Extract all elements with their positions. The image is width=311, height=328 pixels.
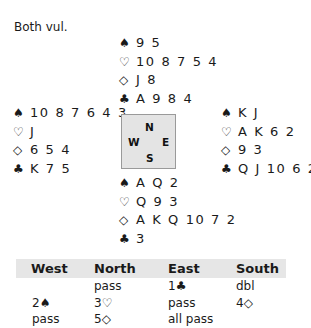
bid-west: 2♠ bbox=[16, 295, 88, 312]
bidding-row: 2♠ 3♡ pass 4◇ bbox=[16, 295, 286, 312]
bid-north: pass bbox=[88, 278, 164, 295]
header-west: West bbox=[16, 259, 88, 278]
diamond-icon: ◇ bbox=[221, 141, 238, 160]
south-clubs: ♣3 bbox=[119, 230, 237, 249]
compass-west: W bbox=[128, 136, 140, 148]
west-diamonds: ◇6 5 4 bbox=[13, 141, 128, 160]
east-hearts: ♡A K 6 2 bbox=[221, 123, 311, 142]
spade-icon: ♠ bbox=[221, 104, 238, 123]
bid-east: all pass bbox=[164, 311, 230, 328]
compass-north: N bbox=[145, 121, 154, 133]
spade-icon: ♠ bbox=[119, 34, 136, 53]
bid-west bbox=[16, 278, 88, 295]
bidding-table: West North East South pass 1♣ dbl 2♠ 3♡ … bbox=[16, 259, 286, 328]
north-hand: ♠9 5 ♡10 8 7 5 4 ◇J 8 ♣A 9 8 4 bbox=[119, 34, 218, 108]
bid-north: 3♡ bbox=[88, 295, 164, 312]
compass-east: E bbox=[162, 136, 169, 148]
bidding-header: West North East South bbox=[16, 259, 286, 278]
club-icon: ♣ bbox=[119, 230, 136, 249]
west-hand: ♠10 8 7 6 4 3 ♡J ◇6 5 4 ♣K 7 5 bbox=[13, 104, 128, 178]
diamond-icon: ◇ bbox=[119, 211, 136, 230]
spade-icon: ♠ bbox=[13, 104, 30, 123]
west-hearts: ♡J bbox=[13, 123, 128, 142]
bid-south bbox=[230, 311, 286, 328]
north-clubs: ♣A 9 8 4 bbox=[119, 90, 218, 109]
south-spades: ♠A Q 2 bbox=[119, 174, 237, 193]
compass-south: S bbox=[146, 152, 154, 164]
bid-east: 1♣ bbox=[164, 278, 230, 295]
bid-west: pass bbox=[16, 311, 88, 328]
header-east: East bbox=[164, 259, 230, 278]
north-hearts: ♡10 8 7 5 4 bbox=[119, 53, 218, 72]
bidding-row: pass 5◇ all pass bbox=[16, 311, 286, 328]
north-diamonds: ◇J 8 bbox=[119, 71, 218, 90]
east-spades: ♠K J bbox=[221, 104, 311, 123]
west-spades: ♠10 8 7 6 4 3 bbox=[13, 104, 128, 123]
south-hearts: ♡Q 9 3 bbox=[119, 193, 237, 212]
heart-icon: ♡ bbox=[119, 193, 136, 212]
bidding-row: pass 1♣ dbl bbox=[16, 278, 286, 295]
east-hand: ♠K J ♡A K 6 2 ◇9 3 ♣Q J 10 6 2 bbox=[221, 104, 311, 178]
heart-icon: ♡ bbox=[221, 123, 238, 142]
heart-icon: ♡ bbox=[13, 123, 30, 142]
south-hand: ♠A Q 2 ♡Q 9 3 ◇A K Q 10 7 2 ♣3 bbox=[119, 174, 237, 248]
bid-north: 5◇ bbox=[88, 311, 164, 328]
bid-south: dbl bbox=[230, 278, 286, 295]
vulnerability-label: Both vul. bbox=[14, 20, 68, 34]
bid-south: 4◇ bbox=[230, 295, 286, 312]
north-spades: ♠9 5 bbox=[119, 34, 218, 53]
west-clubs: ♣K 7 5 bbox=[13, 160, 128, 179]
header-north: North bbox=[88, 259, 164, 278]
diamond-icon: ◇ bbox=[13, 141, 30, 160]
compass-box: N W E S bbox=[121, 114, 176, 169]
club-icon: ♣ bbox=[13, 160, 30, 179]
heart-icon: ♡ bbox=[119, 53, 136, 72]
header-south: South bbox=[230, 259, 286, 278]
south-diamonds: ◇A K Q 10 7 2 bbox=[119, 211, 237, 230]
bid-east: pass bbox=[164, 295, 230, 312]
east-diamonds: ◇9 3 bbox=[221, 141, 311, 160]
diamond-icon: ◇ bbox=[119, 71, 136, 90]
spade-icon: ♠ bbox=[119, 174, 136, 193]
